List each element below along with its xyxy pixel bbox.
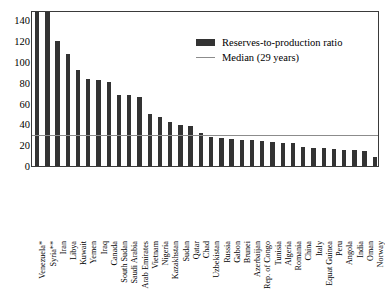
x-axis-tick-label: Peru xyxy=(336,226,344,241)
bar xyxy=(332,149,336,166)
x-axis-tick-label: Uzbekistan xyxy=(213,204,221,241)
x-axis-tick-label: Libya xyxy=(70,222,78,241)
y-axis-tick-label: 120 xyxy=(14,37,30,48)
x-axis-tick-label: Angola xyxy=(346,217,354,241)
x-axis-tick-label: China xyxy=(305,221,313,241)
x-axis-tick-label: Kazakhstan xyxy=(172,203,180,241)
x-axis-tick-label: Russia xyxy=(224,219,232,241)
x-axis-tick-label: Romania xyxy=(295,211,303,241)
y-axis-tick-label: 40 xyxy=(20,120,31,131)
bar xyxy=(55,41,59,166)
bar xyxy=(342,150,346,166)
bar xyxy=(281,143,285,166)
bar xyxy=(148,114,152,166)
y-axis: 020406080100120140 xyxy=(0,0,30,175)
x-axis-tick-label: India xyxy=(357,224,365,241)
bar xyxy=(158,117,162,166)
legend-item-reserves: Reserves-to-production ratio xyxy=(196,35,371,50)
x-axis-tick-label: Nigeria xyxy=(162,216,170,241)
bar xyxy=(311,148,315,166)
x-axis-tick-label: Canada xyxy=(111,216,119,241)
x-axis-tick-label: Algeria xyxy=(285,216,293,241)
x-axis-tick-label: South Sudan xyxy=(121,199,129,241)
x-axis-tick-label: Venezuela* xyxy=(39,203,47,241)
bar xyxy=(66,54,70,166)
x-axis-tick-label: Yemen xyxy=(90,218,98,241)
bar xyxy=(219,138,223,166)
x-axis-tick-label: Saudi Arabia xyxy=(131,198,139,241)
x-axis-tick-label: Vietnam xyxy=(152,213,160,241)
bar xyxy=(260,141,264,166)
bar xyxy=(229,139,233,166)
bar xyxy=(240,140,244,166)
x-axis-tick-label: Arab Emirates xyxy=(142,193,150,241)
y-axis-tick-label: 60 xyxy=(20,99,31,110)
x-axis-tick-label: Norway xyxy=(377,215,385,241)
y-axis-tick-label: 100 xyxy=(14,58,30,69)
y-axis-tick-label: 0 xyxy=(25,162,30,173)
bar xyxy=(362,151,366,166)
y-axis-tick-label: 140 xyxy=(14,16,30,27)
median-reference-line xyxy=(32,135,378,136)
bar xyxy=(137,97,141,166)
x-axis: Venezuela*Syria**IranLibyaKuwaitYemenIra… xyxy=(31,168,379,243)
x-axis-tick-label: Syria** xyxy=(50,216,58,241)
bar xyxy=(35,11,39,166)
bar xyxy=(127,95,131,166)
bar xyxy=(209,137,213,166)
legend-label-median: Median (29 years) xyxy=(222,52,299,63)
legend-line-swatch-icon xyxy=(196,57,215,58)
bar xyxy=(352,150,356,166)
x-axis-tick-label: Italy xyxy=(316,226,324,241)
x-axis-tick-label: Kuwait xyxy=(80,217,88,241)
bar xyxy=(322,148,326,166)
bar xyxy=(168,122,172,166)
x-axis-tick-label: Gabon xyxy=(234,219,242,241)
bar xyxy=(117,95,121,166)
legend-bar-swatch-icon xyxy=(196,39,215,46)
bar xyxy=(250,140,254,166)
bar xyxy=(45,11,49,166)
y-axis-tick-label: 80 xyxy=(20,79,31,90)
legend-item-median: Median (29 years) xyxy=(196,50,371,65)
x-axis-tick-label: Brunei xyxy=(244,219,252,241)
bar xyxy=(178,125,182,166)
bar xyxy=(107,82,111,166)
bar xyxy=(76,70,80,166)
bar xyxy=(86,79,90,166)
x-axis-tick-label: Iraq xyxy=(101,228,109,241)
x-axis-tick-label: Oman xyxy=(367,221,375,241)
y-axis-tick-label: 20 xyxy=(20,141,31,152)
x-axis-tick-label: Iran xyxy=(60,228,68,241)
x-axis-tick-label: Equat Guinea xyxy=(326,196,334,241)
bar xyxy=(96,80,100,166)
x-axis-tick-label: Sudan xyxy=(183,221,191,241)
bar xyxy=(291,143,295,166)
x-axis-tick-label: Chad xyxy=(203,224,211,241)
bar xyxy=(270,142,274,166)
x-axis-tick-label: Rep. of Congo xyxy=(264,193,272,241)
x-axis-tick-label: Azerbaijan xyxy=(254,205,262,241)
bar xyxy=(199,133,203,166)
bar xyxy=(301,147,305,166)
x-axis-tick-label: Tunisia xyxy=(275,217,283,241)
legend: Reserves-to-production ratio Median (29 … xyxy=(196,35,371,65)
x-axis-tick-label: Qatar xyxy=(193,223,201,241)
bar xyxy=(188,126,192,166)
bar xyxy=(373,157,377,166)
legend-label-reserves: Reserves-to-production ratio xyxy=(222,37,342,48)
